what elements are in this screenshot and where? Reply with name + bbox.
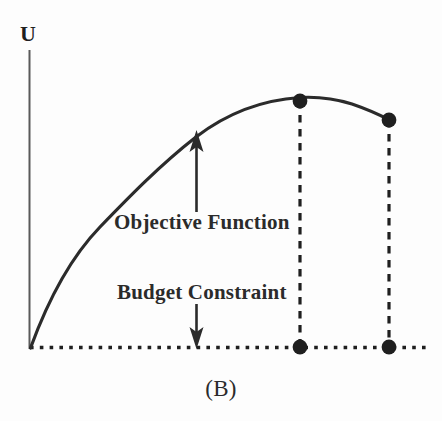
figure-panel-b: U Objective Function Budget Constraint (…	[0, 0, 442, 421]
marker-constrained-on-baseline	[382, 340, 397, 355]
panel-caption: (B)	[0, 376, 442, 402]
budget-constraint-arrow-down	[190, 304, 204, 349]
budget-constraint-annotation-label: Budget Constraint	[117, 280, 287, 305]
marker-optimum-on-baseline	[293, 340, 308, 355]
objective-function-annotation-label: Objective Function	[114, 210, 290, 235]
marker-optimum-on-curve	[293, 94, 308, 109]
y-axis-label: U	[20, 21, 36, 47]
marker-constrained-on-curve	[382, 113, 397, 128]
